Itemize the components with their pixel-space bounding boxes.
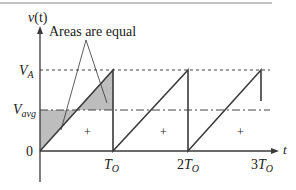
x-axis-arrow-icon [271,148,279,154]
tick-label-2to: 2TO [177,157,199,174]
y-axis-label: v(t) [28,10,48,26]
annotation-pointer-left [61,40,86,130]
va-label: VA [19,63,35,80]
region-sign-3: + [237,125,244,139]
region-sign-2: + [160,125,167,139]
areas-equal-annotation: Areas are equal [49,24,136,39]
tick-label-3to: 3TO [251,157,273,174]
sawtooth-average-diagram: v(t) Areas are equal VA Vavg 0 TO 2TO 3T… [0,0,296,190]
region-sign-1: + [84,125,91,139]
zero-label: 0 [26,144,33,159]
x-axis-label: t [283,142,287,157]
vavg-label: Vavg [13,102,36,119]
tick-label-to: TO [104,157,119,174]
y-axis-arrow-icon [37,26,43,34]
